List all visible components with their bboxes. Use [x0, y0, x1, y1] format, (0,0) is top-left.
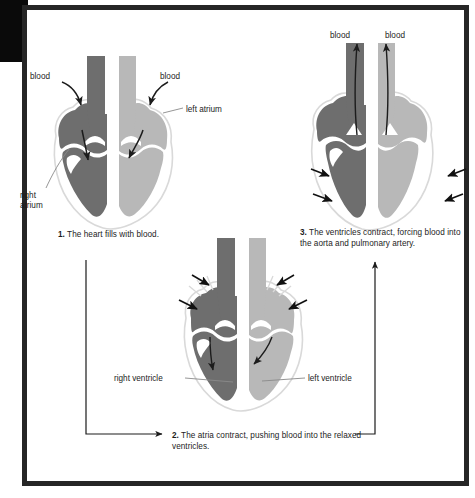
label-left-ventricle: left ventricle [308, 374, 352, 384]
caption-step-2-number: 2. [172, 431, 179, 440]
caption-step-3-number: 3. [300, 228, 307, 237]
figure-canvas [0, 0, 475, 498]
heart-diagram-step-1 [54, 54, 172, 229]
caption-step-3-text: The ventricles contract, forcing blood i… [300, 228, 461, 248]
heart-diagram-step-3 [312, 41, 433, 230]
label-right-ventricle: right ventricle [114, 374, 163, 384]
label-blood-right-atrium: blood [30, 72, 50, 82]
flow-arrow-1-to-2 [86, 260, 162, 434]
heart-diagram-step-2 [184, 236, 302, 411]
caption-step-3: 3. The ventricles contract, forcing bloo… [300, 227, 472, 249]
label-blood-left-atrium: blood [160, 72, 180, 82]
label-left-atrium: left atrium [186, 105, 222, 115]
caption-step-1-number: 1. [58, 230, 65, 239]
cardiac-cycle-figure: 1. The heart fills with blood. 2. The at… [0, 0, 475, 498]
caption-step-2-text: The atria contract, pushing blood into t… [172, 431, 361, 451]
label-blood-pulmonary-artery: blood [330, 31, 350, 41]
label-blood-aorta: blood [385, 31, 405, 41]
caption-step-2: 2. The atria contract, pushing blood int… [172, 430, 362, 452]
caption-step-1-text: The heart fills with blood. [65, 230, 159, 239]
flow-arrow-2-to-3 [355, 262, 375, 434]
label-right-atrium: right atrium [20, 191, 43, 211]
caption-step-1: 1. The heart fills with blood. [58, 229, 233, 240]
